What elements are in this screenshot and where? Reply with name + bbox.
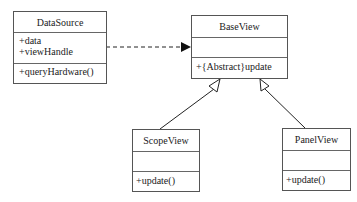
class-attributes — [133, 152, 199, 172]
generalization-line-scopeview — [160, 89, 214, 129]
class-operations: +update() — [283, 171, 350, 190]
hollow-triangle-icon — [209, 79, 220, 92]
class-scopeview[interactable]: ScopeView +update() — [132, 129, 200, 192]
class-baseview[interactable]: BaseView +{Abstract}update — [191, 15, 288, 79]
class-name: BaseView — [192, 16, 287, 38]
class-name: ScopeView — [133, 130, 199, 152]
attribute: +data — [19, 35, 106, 46]
class-attributes: +data +viewHandle — [14, 33, 106, 64]
class-operations: +queryHardware() — [14, 64, 106, 83]
class-name: PanelView — [283, 129, 350, 151]
operation: +update() — [286, 174, 350, 185]
class-datasource[interactable]: DataSource +data +viewHandle +queryHardw… — [13, 11, 107, 84]
operation: +{Abstract}update — [196, 61, 287, 72]
hollow-triangle-icon — [260, 79, 269, 91]
class-attributes — [192, 38, 287, 58]
filled-arrowhead-icon — [181, 42, 191, 52]
class-attributes — [283, 151, 350, 171]
class-operations: +{Abstract}update — [192, 58, 287, 78]
class-operations: +update() — [133, 172, 199, 191]
operation: +update() — [136, 175, 199, 186]
generalization-line-panelview — [265, 89, 305, 128]
attribute: +viewHandle — [19, 46, 106, 57]
class-panelview[interactable]: PanelView +update() — [282, 128, 351, 191]
operation: +queryHardware() — [19, 66, 106, 77]
class-name: DataSource — [14, 12, 106, 33]
